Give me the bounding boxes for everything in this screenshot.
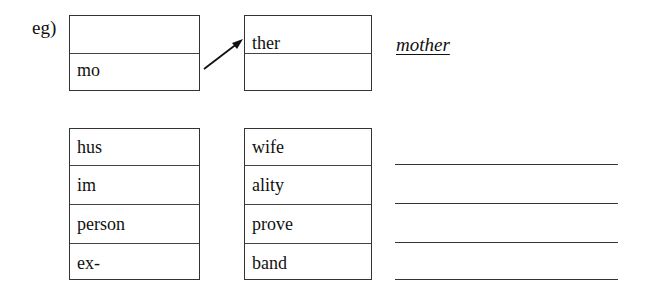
exercise-left-box: hus im person ex- — [69, 128, 200, 280]
answer-line-1[interactable] — [395, 164, 618, 165]
left-item: person — [70, 204, 199, 243]
left-item: hus — [70, 129, 199, 165]
arrow-icon — [200, 36, 246, 72]
example-right-cell-1: ther — [245, 16, 371, 53]
example-right-box: ther — [244, 15, 372, 91]
right-item: wife — [245, 129, 371, 165]
example-answer: mother — [396, 34, 450, 56]
left-item: ex- — [70, 243, 199, 280]
answer-line-3[interactable] — [395, 242, 618, 243]
answer-line-4[interactable] — [395, 279, 618, 280]
example-right-cell-2 — [245, 53, 371, 90]
example-label: eg) — [32, 17, 56, 39]
right-item: band — [245, 243, 371, 280]
example-left-box: mo — [69, 15, 200, 91]
answer-line-2[interactable] — [395, 203, 618, 204]
right-item: ality — [245, 165, 371, 204]
example-left-cell-2: mo — [70, 53, 199, 90]
left-item: im — [70, 165, 199, 204]
exercise-right-box: wife ality prove band — [244, 128, 372, 280]
example-left-cell-1 — [70, 16, 199, 53]
right-item: prove — [245, 204, 371, 243]
